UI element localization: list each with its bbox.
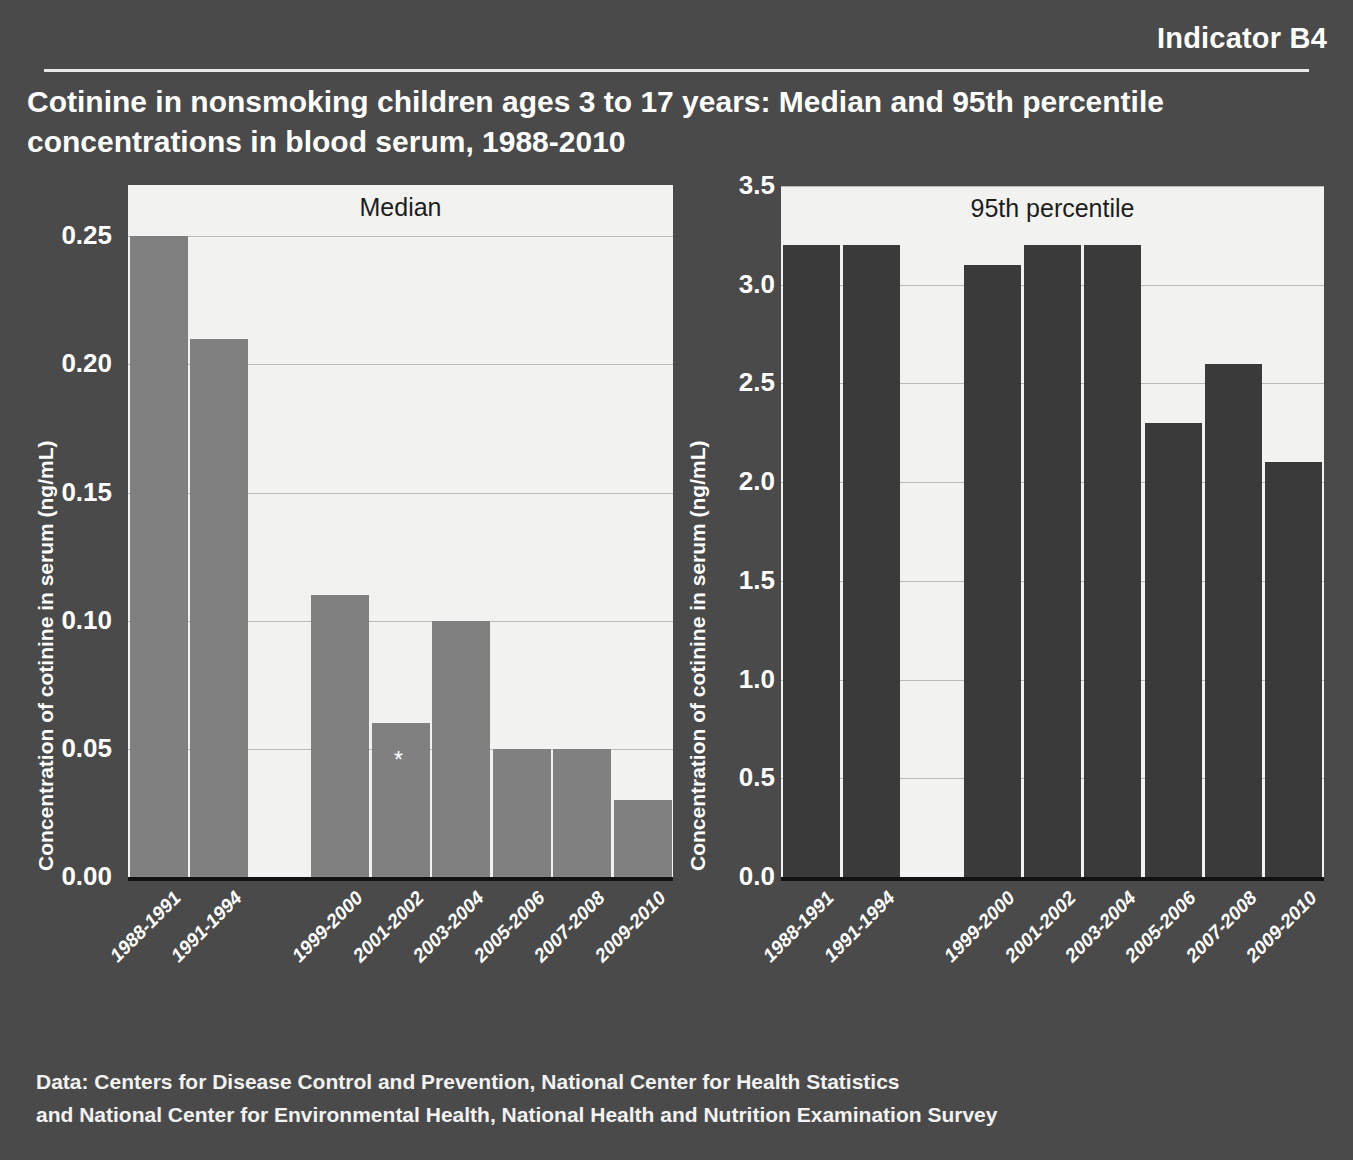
source-note-line-1: Data: Centers for Disease Control and Pr… [36,1066,1336,1099]
source-note: Data: Centers for Disease Control and Pr… [36,1066,1336,1131]
bar-p95-1988-1991 [783,245,840,877]
bar-p95-2001-2002 [1024,245,1081,877]
y-tick-label: 0.5 [655,762,775,793]
y-tick-label: 1.0 [655,664,775,695]
y-tick-label: 0.0 [655,861,775,892]
plot-area-p95: 95th percentile [781,186,1324,877]
bar-p95-2005-2006 [1145,423,1202,877]
y-tick-label: 1.5 [655,565,775,596]
bar-p95-1991-1994 [843,245,900,877]
y-tick-label: 2.5 [655,367,775,398]
chart-title-p95: 95th percentile [781,194,1324,223]
gridline [781,186,1324,187]
y-tick-label: 3.5 [655,170,775,201]
chart-panel-95th-percentile: 95th percentile0.00.51.01.52.02.53.03.5C… [0,0,1353,1060]
bar-p95-1999-2000 [964,265,1021,877]
bar-p95-2007-2008 [1205,364,1262,877]
bar-p95-2009-2010 [1265,462,1322,877]
x-axis-line-p95 [781,877,1324,881]
bar-p95-2003-2004 [1084,245,1141,877]
y-axis-title-p95: Concentration of cotinine in serum (ng/m… [686,441,710,872]
y-tick-label: 2.0 [655,466,775,497]
y-tick-label: 3.0 [655,269,775,300]
source-note-line-2: and National Center for Environmental He… [36,1099,1336,1132]
